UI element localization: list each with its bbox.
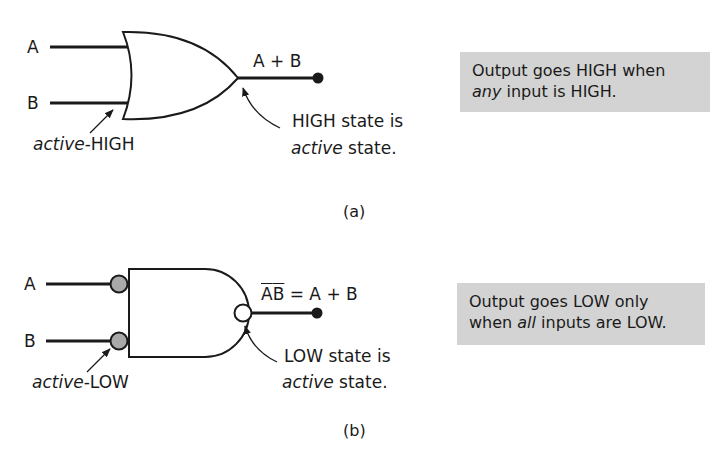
output-bubble-icon: [235, 305, 252, 322]
output-expression: AB = A + B: [261, 284, 358, 304]
caption-b: (b): [343, 421, 366, 441]
output-annotation-arrow-icon: [243, 88, 280, 128]
note-line2: when all inputs are LOW.: [469, 312, 695, 333]
note-line1: Output goes LOW only: [469, 291, 695, 312]
input-annotation-arrow-icon: [87, 349, 110, 372]
caption-a: (a): [343, 202, 365, 222]
annotation-rest: state.: [334, 372, 388, 392]
output-annotation-arrow-icon: [245, 326, 277, 362]
input-a-label: A: [27, 37, 39, 57]
note-rest: inputs are LOW.: [536, 313, 667, 332]
overbar-a: A: [261, 284, 273, 304]
overbar-b: B: [273, 284, 285, 304]
note-pre: when: [469, 313, 517, 332]
annotation-rest: state.: [343, 138, 397, 158]
or-gate-symbol-icon: [123, 32, 238, 119]
output-terminal-dot-icon: [313, 73, 324, 84]
annotation-italic: active: [32, 372, 84, 392]
input-b-bubble-icon: [111, 333, 128, 350]
output-terminal-dot-icon: [312, 308, 323, 319]
note-line1: Output goes HIGH when: [472, 60, 700, 81]
input-annotation: active-LOW: [32, 372, 129, 392]
input-b-label: B: [24, 331, 36, 351]
annotation-rest: -HIGH: [85, 134, 135, 154]
or-gate-panel-a: [50, 32, 324, 133]
annotation-italic: active: [282, 372, 334, 392]
output-annotation-line2: active state.: [282, 372, 388, 392]
output-expression: A + B: [253, 51, 301, 71]
annotation-rest: -LOW: [84, 372, 129, 392]
output-annotation-line1: HIGH state is: [292, 111, 403, 131]
input-annotation-arrow-icon: [90, 110, 113, 133]
note-rest: input is HIGH.: [501, 82, 616, 101]
annotation-italic: active: [291, 138, 343, 158]
input-a-label: A: [24, 274, 36, 294]
note-line2: any input is HIGH.: [472, 81, 700, 102]
output-annotation-line2: active state.: [291, 138, 397, 158]
input-annotation: active-HIGH: [33, 134, 135, 154]
annotation-italic: active: [33, 134, 85, 154]
input-b-label: B: [27, 93, 39, 113]
output-annotation-line1: LOW state is: [284, 346, 391, 366]
expr-rest: = A + B: [284, 284, 357, 304]
and-gate-symbol-icon: [129, 269, 249, 357]
note-italic: all: [517, 313, 536, 332]
input-a-bubble-icon: [111, 276, 128, 293]
note-box-b: Output goes LOW only when all inputs are…: [457, 283, 705, 345]
note-italic: any: [472, 82, 501, 101]
note-box-a: Output goes HIGH when any input is HIGH.: [460, 52, 710, 112]
